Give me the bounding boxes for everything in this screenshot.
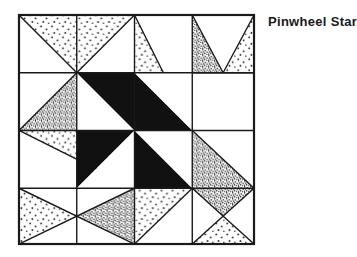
side-block-right-lower (192, 130, 254, 188)
corner-block-bottom-right (192, 188, 254, 244)
edge-cell-bottom-c1 (135, 188, 193, 244)
patch-r0-white (192, 73, 254, 131)
quilt-block-svg (17, 13, 256, 246)
quilt-block-figure (17, 13, 256, 246)
side-block-right (192, 73, 254, 131)
block-title: Pinwheel Star (268, 14, 357, 29)
